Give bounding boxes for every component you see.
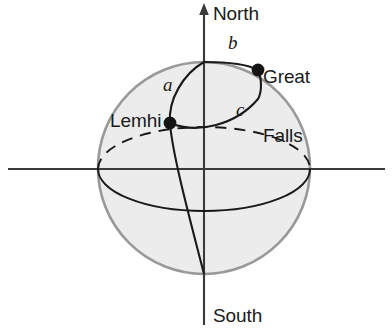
sphere-diagram: North South Lemhi Great Falls a b c: [0, 0, 392, 333]
north-arrowhead-icon: [199, 3, 209, 15]
south-label: South: [213, 306, 262, 326]
great-falls-label: Great Falls: [263, 27, 310, 185]
great-falls-label-line2: Falls: [263, 126, 310, 146]
arc-label-a: a: [163, 74, 173, 96]
arc-label-c: c: [236, 99, 244, 121]
lemhi-label: Lemhi: [110, 111, 161, 131]
point-marker-lemhi: [164, 117, 177, 130]
arc-label-b: b: [228, 32, 238, 54]
great-falls-label-line1: Great: [263, 67, 310, 87]
sphere-diagram-canvas: [0, 0, 392, 333]
north-label: North: [213, 4, 259, 24]
